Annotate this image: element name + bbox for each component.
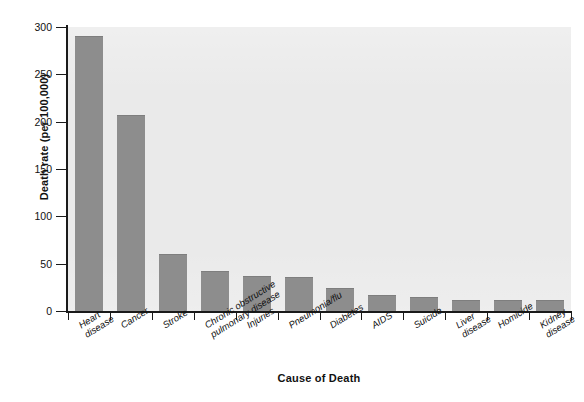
y-axis-tick-label: 100 <box>6 210 52 222</box>
y-axis-tick <box>56 311 66 312</box>
x-axis-tick <box>194 313 195 320</box>
y-axis-tick-label: 150 <box>6 163 52 175</box>
x-axis-title: Cause of Death <box>67 372 571 384</box>
y-axis-tick-label: 200 <box>6 116 52 128</box>
y-axis-tick <box>56 169 66 170</box>
y-axis-tick <box>56 264 66 265</box>
y-axis-tick-label: 300 <box>6 21 52 33</box>
x-axis-tick <box>445 313 446 320</box>
x-axis-tick <box>278 313 279 320</box>
x-axis-tick <box>68 313 69 320</box>
y-axis-tick <box>56 74 66 75</box>
x-axis-tick <box>529 313 530 320</box>
x-axis-tick <box>403 313 404 320</box>
bar <box>75 36 103 311</box>
x-axis-tick <box>152 313 153 320</box>
bar <box>368 295 396 311</box>
bar <box>159 254 187 311</box>
y-axis-tick-label: 50 <box>6 258 52 270</box>
y-axis-line <box>66 25 68 313</box>
y-axis-title: Death rate (per 100,000) <box>38 7 50 267</box>
x-axis-tick <box>361 313 362 320</box>
x-axis-label: AIDS <box>370 310 394 331</box>
y-axis-tick <box>56 122 66 123</box>
y-axis-tick <box>56 27 66 28</box>
bar <box>117 115 145 311</box>
bar <box>201 271 229 311</box>
y-axis-tick <box>56 216 66 217</box>
y-axis-tick-label: 250 <box>6 68 52 80</box>
y-axis-tick-label: 0 <box>6 305 52 317</box>
bar <box>285 277 313 311</box>
bar-chart: Death rate (per 100,000) 050100150200250… <box>0 0 584 402</box>
